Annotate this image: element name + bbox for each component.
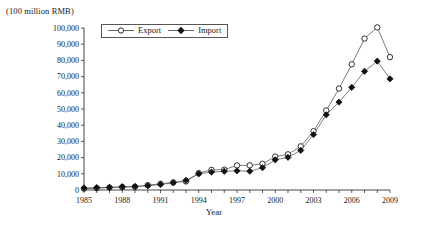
data-point-import [387,76,393,82]
data-point-export [349,62,354,67]
svg-text:1994: 1994 [191,196,207,205]
legend-label-export: Export [136,26,161,35]
svg-text:40,000: 40,000 [57,121,79,130]
data-series-layer [81,25,393,192]
filled-diamond-icon [168,26,194,35]
data-point-export [336,86,341,91]
data-point-import [234,168,240,174]
svg-text:60,000: 60,000 [57,89,79,98]
chart-figure: (100 million RMB) 010,00020,00030,00040,… [0,0,428,231]
data-point-import [247,168,253,174]
svg-text:10,000: 10,000 [57,170,79,179]
svg-text:2009: 2009 [382,196,398,205]
x-axis-ticks: 198519881991199419972000200320062009 [76,190,398,205]
svg-text:2000: 2000 [267,196,283,205]
y-axis-ticks: 010,00020,00030,00040,00050,00060,00070,… [53,24,84,195]
legend-item-export: Export [108,26,161,35]
chart-legend: Export Import [101,24,228,38]
svg-text:1997: 1997 [229,196,245,205]
svg-text:90,000: 90,000 [57,40,79,49]
svg-text:20,000: 20,000 [57,153,79,162]
svg-text:1988: 1988 [114,196,130,205]
svg-text:50,000: 50,000 [57,105,79,114]
data-point-export [375,25,380,30]
legend-label-import: Import [196,26,221,35]
data-point-export [362,36,367,41]
svg-text:0: 0 [75,186,79,195]
svg-text:2003: 2003 [306,196,322,205]
svg-text:1985: 1985 [76,196,92,205]
svg-text:1991: 1991 [153,196,169,205]
svg-text:70,000: 70,000 [57,72,79,81]
legend-item-import: Import [168,26,221,35]
svg-text:80,000: 80,000 [57,56,79,65]
svg-text:30,000: 30,000 [57,137,79,146]
open-circle-icon [108,26,134,35]
svg-text:2006: 2006 [344,196,360,205]
data-point-export [387,54,392,59]
x-axis-title: Year [0,207,428,217]
svg-text:100,000: 100,000 [53,24,79,33]
data-point-export [247,163,252,168]
